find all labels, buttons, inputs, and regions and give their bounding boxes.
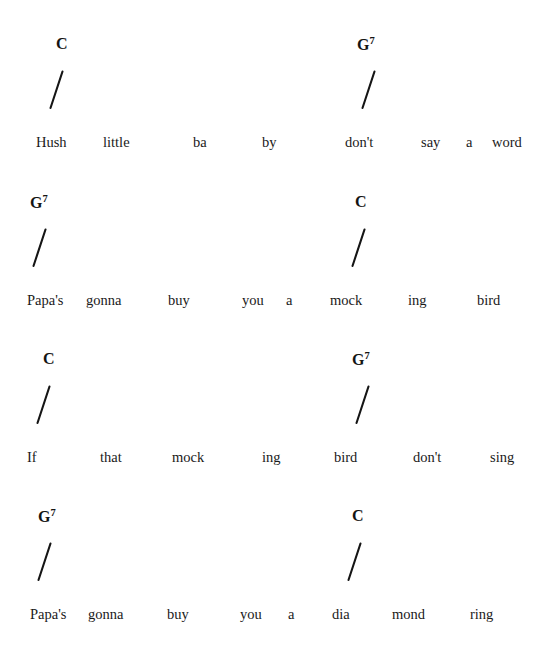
lyric-syllable: bird [477,293,500,308]
lyric-syllable: that [100,450,122,465]
lyric-syllable: a [466,135,472,150]
lyric-syllable: you [240,607,262,622]
chord-extension: 7 [42,193,47,204]
lyric-syllable: mock [330,293,362,308]
strum-slash-mark [350,228,368,268]
strum-slash-mark [35,385,53,425]
lyric-syllable: by [262,135,277,150]
chord-root: G [352,351,364,368]
chord-root: G [30,194,42,211]
lyric-syllable: Papa's [27,293,63,308]
strum-slash-mark [31,228,49,268]
lyric-syllable: a [288,607,294,622]
lyric-syllable: ba [193,135,207,150]
lyric-syllable: little [103,135,130,150]
chart-line: CG7Hushlittlebabydon'tsayaword [0,22,558,177]
chord-root: G [357,36,369,53]
chord-symbol: C [352,508,364,524]
lyric-syllable: gonna [88,607,123,622]
chord-symbol: C [56,36,68,52]
chord-symbol: G7 [357,36,375,53]
lyric-syllable: bird [334,450,357,465]
chord-root: C [43,350,55,367]
chord-symbol: C [355,194,367,210]
lyric-syllable: ing [262,450,281,465]
lyric-syllable: If [27,450,37,465]
chart-line: G7CPapa'sgonnabuyyouamockingbird [0,180,558,335]
lyric-syllable: you [242,293,264,308]
lyric-syllable: Hush [36,135,67,150]
lyric-syllable: ing [408,293,427,308]
strum-slash-mark [36,542,54,582]
lyric-syllable: sing [490,450,514,465]
strum-slash-mark [354,385,372,425]
chord-root: C [355,193,367,210]
lyric-syllable: mock [172,450,204,465]
lyric-syllable: don't [345,135,373,150]
lyric-syllable: gonna [86,293,121,308]
lyric-syllable: word [492,135,522,150]
lyric-syllable: ring [470,607,493,622]
chord-extension: 7 [50,507,55,518]
strum-slash-mark [346,542,364,582]
chord-symbol: G7 [38,508,56,525]
lyric-syllable: buy [167,607,189,622]
chord-extension: 7 [369,35,374,46]
chord-root: C [56,35,68,52]
lyric-syllable: don't [413,450,441,465]
chord-symbol: G7 [30,194,48,211]
lyric-syllable: buy [168,293,190,308]
strum-slash-mark [48,70,66,110]
lyric-syllable: Papa's [30,607,66,622]
chart-line: CG7Ifthatmockingbirddon'tsing [0,337,558,492]
strum-slash-mark [360,70,378,110]
chord-extension: 7 [364,350,369,361]
chord-chart-sheet: CG7Hushlittlebabydon'tsayawordG7CPapa'sg… [0,0,558,659]
lyric-syllable: say [421,135,440,150]
lyric-syllable: mond [392,607,425,622]
chord-symbol: G7 [352,351,370,368]
lyric-syllable: dia [332,607,350,622]
chord-symbol: C [43,351,55,367]
chord-root: C [352,507,364,524]
chart-line: G7CPapa'sgonnabuyyouadiamondring [0,494,558,649]
lyric-syllable: a [286,293,292,308]
chord-root: G [38,508,50,525]
